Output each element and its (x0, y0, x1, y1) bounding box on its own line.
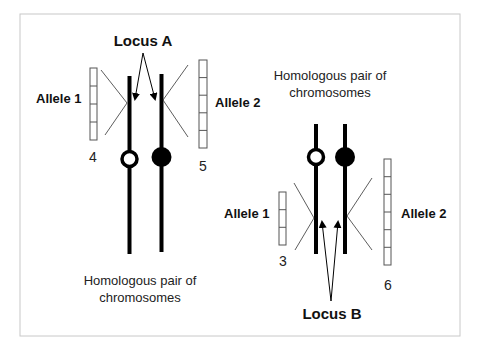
allele-1-box-top (90, 68, 97, 140)
allele-2-connector-bottom (163, 100, 188, 137)
allele-1-connector-bottom-b (295, 218, 314, 250)
allele-2-connector-top-b (347, 178, 372, 216)
allele-1-connector-top (101, 70, 127, 103)
allele-1-number-top: 4 (89, 149, 97, 165)
top-pair-caption-line2: chromosomes (99, 290, 181, 305)
allele-2-connector-bottom-b (347, 216, 372, 250)
top-pair-caption-line1: Homologous pair of (84, 273, 197, 288)
locus-a-arrow-left (135, 53, 143, 99)
bottom-pair-caption-line2: chromosomes (289, 85, 371, 100)
centromere-filled-icon (335, 147, 355, 167)
allele-1-label-bottom: Allele 1 (224, 206, 270, 221)
allele-2-box-bottom (384, 159, 391, 265)
locus-a-arrow-right (143, 53, 155, 99)
allele-1-connector-top-b (294, 183, 314, 218)
allele-2-label-top: Allele 2 (215, 95, 261, 110)
centromere-filled-icon (152, 147, 172, 167)
locus-b-arrow-right (331, 222, 338, 301)
allele-1-box-bottom (279, 192, 286, 245)
allele-1-connector-bottom (105, 103, 127, 135)
locus-b-label: Locus B (302, 305, 361, 322)
allele-2-number-bottom: 6 (384, 277, 392, 293)
allele-2-connector-top (163, 65, 188, 100)
allele-1-number-bottom: 3 (279, 253, 287, 269)
bottom-pair-caption-line1: Homologous pair of (274, 68, 387, 83)
diagram-canvas: Locus A Allele 1 4 (0, 0, 479, 354)
centromere-open-icon (309, 150, 324, 165)
allele-1-label-top: Allele 1 (36, 91, 82, 106)
centromere-open-icon (122, 152, 137, 167)
allele-2-label-bottom: Allele 2 (401, 206, 447, 221)
allele-2-box-top (199, 60, 207, 148)
top-chromosome-pair: Locus A Allele 1 4 (36, 32, 261, 305)
allele-2-number-top: 5 (199, 158, 207, 174)
locus-b-arrow-left (322, 222, 331, 301)
locus-a-label: Locus A (114, 32, 173, 49)
